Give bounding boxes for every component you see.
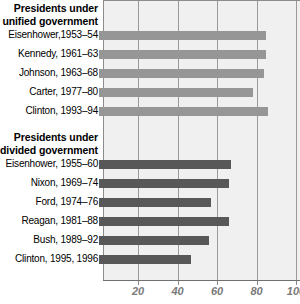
row-label-divided-3: Reagan, 1981–88 <box>0 215 98 226</box>
x-axis-line <box>103 280 300 281</box>
x-tick-label-80: 80 <box>250 285 262 297</box>
bar-divided-0 <box>99 160 231 169</box>
x-tick-label-100: 100 <box>287 285 300 297</box>
row-label-divided-2: Ford, 1974–76 <box>0 196 98 207</box>
row-label-unified-2: Johnson, 1963–68 <box>0 67 98 78</box>
row-label-unified-1: Kennedy, 1961–63 <box>0 48 98 59</box>
row-label-divided-4: Bush, 1989–92 <box>0 234 98 245</box>
row-label-divided-0: Eisenhower, 1955–60 <box>0 158 98 169</box>
bar-unified-4 <box>99 107 269 116</box>
presidential-success-bar-chart: 20406080100 Presidents underunified gove… <box>0 0 300 304</box>
gridline-100 <box>296 1 297 281</box>
bar-unified-0 <box>99 31 267 40</box>
row-label-unified-3: Carter, 1977–80 <box>0 86 98 97</box>
x-tick-label-20: 20 <box>132 285 144 297</box>
group-heading-line2: unified government <box>0 15 98 28</box>
bar-divided-4 <box>99 236 210 245</box>
plot-inner <box>103 1 300 281</box>
bar-unified-1 <box>99 50 267 59</box>
x-tick-label-60: 60 <box>211 285 223 297</box>
row-label-unified-4: Clinton, 1993–94 <box>0 105 98 116</box>
gridline-60 <box>217 1 218 281</box>
group-heading-line1: Presidents under <box>0 2 98 15</box>
x-tick-label-40: 40 <box>171 285 183 297</box>
group-heading-line1: Presidents under <box>0 131 98 144</box>
bar-divided-3 <box>99 217 229 226</box>
row-label-divided-1: Nixon, 1969–74 <box>0 177 98 188</box>
group-heading-divided: Presidents underdivided government <box>0 131 98 156</box>
bar-unified-2 <box>99 69 265 78</box>
bar-divided-5 <box>99 255 192 264</box>
plot-area <box>103 0 300 281</box>
group-heading-unified: Presidents underunified government <box>0 2 98 27</box>
group-heading-line2: divided government <box>0 144 98 157</box>
row-label-divided-5: Clinton, 1995, 1996 <box>0 253 98 264</box>
bar-divided-2 <box>99 198 212 207</box>
bar-divided-1 <box>99 179 229 188</box>
bar-unified-3 <box>99 88 253 97</box>
gridline-80 <box>257 1 258 281</box>
category-label-column: Presidents underunified governmentEisenh… <box>0 0 102 280</box>
row-label-unified-0: Eisenhower,1953–54 <box>0 29 98 40</box>
